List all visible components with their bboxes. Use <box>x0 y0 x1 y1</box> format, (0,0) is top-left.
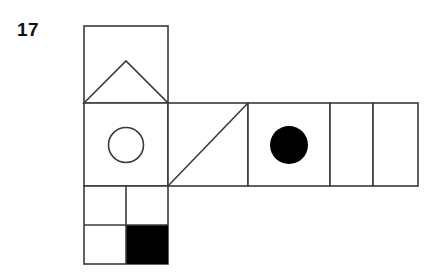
circle-outline-icon <box>109 128 144 163</box>
quarter-filled-block <box>126 225 168 264</box>
face-diagonal <box>168 103 248 186</box>
face-blank-1-border <box>330 103 373 186</box>
face-triangle <box>84 26 168 103</box>
face-quartered <box>84 186 168 264</box>
face-blank-2-border <box>373 103 418 186</box>
puzzle-figure-container: 17 <box>0 0 436 273</box>
face-blank-1 <box>330 103 373 186</box>
face-circle-outline <box>84 103 168 186</box>
face-blank-2 <box>373 103 418 186</box>
circle-filled-icon <box>270 126 308 164</box>
face-circle-filled <box>248 103 330 186</box>
cube-net-diagram <box>0 0 436 273</box>
